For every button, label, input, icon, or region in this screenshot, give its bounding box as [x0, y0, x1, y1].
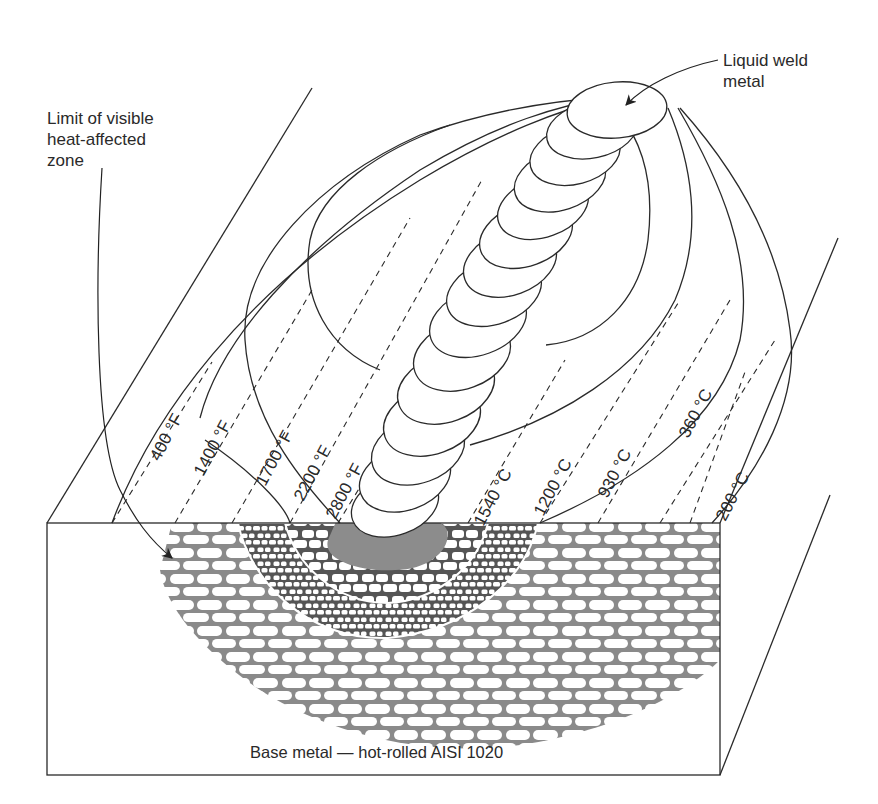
isotherm-200C	[680, 108, 792, 523]
haz-limit-arrow	[98, 168, 172, 558]
lower-right-edge	[720, 495, 830, 775]
base-metal-label: Base metal — hot-rolled AISI 1020	[250, 742, 503, 763]
liquid-weld-callout: Liquid weld metal	[723, 50, 808, 92]
microstructure-cross-section	[160, 515, 720, 748]
haz-limit-callout: Limit of visible heat-affected zone	[47, 108, 154, 171]
isotherm-2200F	[308, 125, 450, 370]
